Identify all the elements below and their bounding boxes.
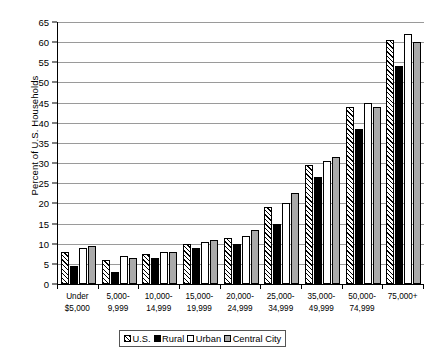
bar bbox=[251, 230, 259, 284]
bar bbox=[201, 242, 209, 284]
legend-swatch-icon bbox=[224, 335, 231, 342]
legend-item[interactable]: Rural bbox=[154, 334, 185, 344]
bar bbox=[404, 34, 412, 284]
bar bbox=[192, 248, 200, 284]
y-tick-label-60: 60 bbox=[38, 37, 49, 48]
y-tick-label-40: 40 bbox=[38, 117, 49, 128]
plot-area bbox=[57, 22, 424, 285]
y-tick-label-30: 30 bbox=[38, 158, 49, 169]
bar bbox=[305, 165, 313, 284]
legend-swatch-icon bbox=[154, 335, 161, 342]
bar bbox=[395, 66, 403, 284]
x-tickmark-7 bbox=[342, 284, 343, 289]
bar bbox=[314, 177, 322, 284]
x-axis-label-8: 75,000+ bbox=[382, 291, 423, 314]
bar bbox=[70, 266, 78, 284]
y-tick-label-0: 0 bbox=[44, 279, 49, 290]
bar bbox=[346, 107, 354, 284]
bar bbox=[291, 193, 299, 284]
bar bbox=[79, 248, 87, 284]
bar bbox=[233, 244, 241, 284]
bar bbox=[355, 129, 363, 284]
x-axis-label-4: 20,000- 24,999 bbox=[220, 291, 261, 314]
legend-item-label: Central City bbox=[233, 334, 282, 344]
legend-item[interactable]: Central City bbox=[224, 334, 281, 344]
x-tickmark-2 bbox=[138, 284, 139, 289]
bar bbox=[142, 254, 150, 284]
chart-legend: U.S.RuralUrbanCentral City bbox=[119, 330, 286, 347]
x-axis-labels: Under $5,0005,000- 9,99910,000- 14,99915… bbox=[57, 291, 423, 314]
x-axis-label-0: Under $5,000 bbox=[57, 291, 98, 314]
bar bbox=[413, 42, 421, 284]
y-axis-ticks: 05101520253035404550556065 bbox=[0, 22, 57, 284]
x-tickmark-1 bbox=[98, 284, 99, 289]
bar bbox=[273, 224, 281, 284]
y-tick-label-50: 50 bbox=[38, 77, 49, 88]
bar-groups bbox=[58, 22, 424, 284]
x-tickmark-8 bbox=[382, 284, 383, 289]
y-tick-label-35: 35 bbox=[38, 137, 49, 148]
bar-group bbox=[58, 22, 99, 284]
bar bbox=[169, 252, 177, 284]
legend-item[interactable]: U.S. bbox=[124, 334, 151, 344]
bar-group bbox=[139, 22, 180, 284]
x-tickmark-5 bbox=[260, 284, 261, 289]
bar-group bbox=[302, 22, 343, 284]
bar bbox=[129, 258, 137, 284]
x-tickmark-6 bbox=[301, 284, 302, 289]
bar bbox=[111, 272, 119, 284]
bar bbox=[102, 260, 110, 284]
bar-group bbox=[221, 22, 262, 284]
bar bbox=[61, 252, 69, 284]
x-axis-tickmarks bbox=[57, 284, 423, 289]
bar bbox=[210, 240, 218, 284]
x-axis-label-5: 25,000- 34,999 bbox=[260, 291, 301, 314]
bar bbox=[332, 157, 340, 284]
bar-group bbox=[343, 22, 384, 284]
bar-group bbox=[383, 22, 424, 284]
y-tick-label-55: 55 bbox=[38, 57, 49, 68]
y-tick-label-65: 65 bbox=[38, 17, 49, 28]
bar bbox=[151, 258, 159, 284]
bar bbox=[183, 244, 191, 284]
bar-group bbox=[99, 22, 140, 284]
x-axis-label-7: 50,000- 74,999 bbox=[342, 291, 383, 314]
bar-group bbox=[180, 22, 221, 284]
x-axis-label-1: 5,000- 9,999 bbox=[98, 291, 139, 314]
bar bbox=[373, 107, 381, 284]
bar bbox=[242, 236, 250, 284]
legend-item-label: Urban bbox=[196, 334, 221, 344]
bar bbox=[120, 256, 128, 284]
bar bbox=[364, 103, 372, 284]
bar bbox=[88, 246, 96, 284]
bar-group bbox=[261, 22, 302, 284]
y-tick-label-5: 5 bbox=[44, 258, 49, 269]
bar-chart: Percent of U.S. Households 0510152025303… bbox=[0, 0, 435, 362]
bar bbox=[224, 238, 232, 284]
bar bbox=[160, 252, 168, 284]
x-tickmark-4 bbox=[220, 284, 221, 289]
legend-swatch-icon bbox=[124, 335, 131, 342]
legend-item-label: Rural bbox=[162, 334, 184, 344]
x-tickmark-9 bbox=[423, 284, 424, 289]
legend-item-label: U.S. bbox=[133, 334, 151, 344]
legend-item[interactable]: Urban bbox=[187, 334, 221, 344]
legend-swatch-icon bbox=[187, 335, 194, 342]
x-tickmark-3 bbox=[179, 284, 180, 289]
y-tick-label-10: 10 bbox=[38, 238, 49, 249]
x-axis-label-3: 15,000- 19,999 bbox=[179, 291, 220, 314]
y-tick-label-45: 45 bbox=[38, 97, 49, 108]
x-tickmark-0 bbox=[57, 284, 58, 289]
y-tick-label-15: 15 bbox=[38, 218, 49, 229]
y-tick-label-25: 25 bbox=[38, 178, 49, 189]
x-axis-label-6: 35,000- 49,999 bbox=[301, 291, 342, 314]
bar bbox=[282, 203, 290, 284]
x-axis-label-2: 10,000- 14,999 bbox=[138, 291, 179, 314]
bar bbox=[323, 161, 331, 284]
bar bbox=[386, 40, 394, 284]
bar bbox=[264, 207, 272, 284]
y-tick-label-20: 20 bbox=[38, 198, 49, 209]
